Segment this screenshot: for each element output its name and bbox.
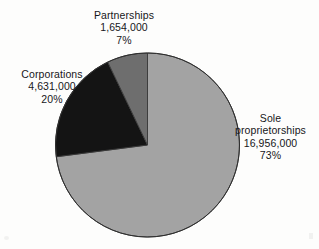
scan-artifact <box>309 233 313 239</box>
scan-artifact <box>4 236 9 240</box>
sole-value: 16,956,000 <box>222 137 319 149</box>
corporations-value: 4,631,000 <box>0 80 104 92</box>
partnerships-percent: 7% <box>54 34 194 46</box>
slice-label-partnerships: Partnerships 1,654,000 7% <box>54 9 194 46</box>
slice-label-corporations: Corporations 4,631,000 20% <box>0 68 104 105</box>
partnerships-name: Partnerships <box>54 9 194 21</box>
pie-chart: Partnerships 1,654,000 7% Corporations 4… <box>0 0 319 249</box>
sole-name-line2: proprietorships <box>222 124 319 136</box>
corporations-name: Corporations <box>0 68 104 80</box>
partnerships-value: 1,654,000 <box>54 21 194 33</box>
sole-name-line1: Sole <box>222 112 319 124</box>
sole-percent: 73% <box>222 149 319 161</box>
slice-label-sole-proprietorships: Sole proprietorships 16,956,000 73% <box>222 112 319 162</box>
corporations-percent: 20% <box>0 93 104 105</box>
